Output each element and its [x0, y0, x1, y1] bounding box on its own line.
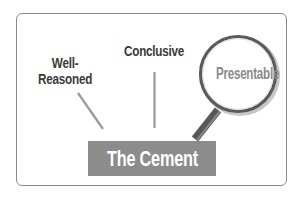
presentable-label: Presentable [201, 64, 275, 84]
magnifier-handle [195, 110, 218, 139]
magnifying-glass-icon [0, 0, 305, 200]
presentable-text: Presentable [216, 64, 279, 84]
